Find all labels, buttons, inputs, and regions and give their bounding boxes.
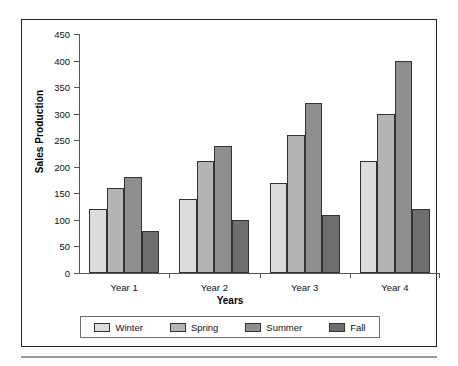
y-tick-label: 100 xyxy=(54,214,70,225)
bar-spring-year-2 xyxy=(197,161,215,273)
bar-summer-year-4 xyxy=(395,61,413,273)
y-tick-mark xyxy=(74,61,79,62)
bar-fall-year-4 xyxy=(412,209,430,273)
legend-item-summer[interactable]: Summer xyxy=(245,322,302,333)
x-tick-label-year-3: Year 3 xyxy=(260,282,350,293)
x-tick-mark xyxy=(260,273,261,278)
y-tick-mark xyxy=(74,167,79,168)
bar-fall-year-2 xyxy=(232,220,250,273)
chart-figure-frame: Sales Production 05010015020025030035040… xyxy=(21,19,437,347)
y-tick-mark xyxy=(74,220,79,221)
bar-summer-year-3 xyxy=(305,103,323,273)
bar-spring-year-4 xyxy=(377,114,395,273)
bar-summer-year-2 xyxy=(214,146,232,273)
y-tick-label: 450 xyxy=(54,29,70,40)
y-tick-label: 300 xyxy=(54,108,70,119)
bar-spring-year-3 xyxy=(287,135,305,273)
x-tick-mark xyxy=(169,273,170,278)
bar-winter-year-1 xyxy=(89,209,107,273)
legend-item-spring[interactable]: Spring xyxy=(170,322,218,333)
y-tick-label: 200 xyxy=(54,161,70,172)
y-tick-label: 50 xyxy=(59,241,70,252)
legend-label-fall: Fall xyxy=(350,322,365,333)
y-tick-label: 350 xyxy=(54,82,70,93)
bar-group-year-1 xyxy=(89,34,159,273)
y-axis-title: Sales Production xyxy=(34,52,45,212)
y-tick-mark xyxy=(74,246,79,247)
y-tick-mark xyxy=(74,273,79,274)
y-tick-label: 250 xyxy=(54,135,70,146)
bar-fall-year-3 xyxy=(322,215,340,273)
bar-winter-year-4 xyxy=(360,161,378,273)
x-tick-mark xyxy=(350,273,351,278)
y-tick-label: 400 xyxy=(54,55,70,66)
bar-group-year-4 xyxy=(360,34,430,273)
legend-label-winter: Winter xyxy=(115,322,142,333)
legend-swatch-winter-icon xyxy=(94,323,110,332)
legend-item-winter[interactable]: Winter xyxy=(94,322,142,333)
y-tick-label: 0 xyxy=(65,268,70,279)
y-tick-mark xyxy=(74,34,79,35)
plot-area: 050100150200250300350400450 Year 1Year 2… xyxy=(79,34,440,273)
x-tick-label-year-2: Year 2 xyxy=(169,282,259,293)
legend-swatch-fall-icon xyxy=(329,323,345,332)
bar-group-year-2 xyxy=(179,34,249,273)
y-tick-mark xyxy=(74,87,79,88)
legend-label-summer: Summer xyxy=(266,322,302,333)
bar-winter-year-3 xyxy=(270,183,288,273)
bar-summer-year-1 xyxy=(124,177,142,273)
x-tick-label-year-4: Year 4 xyxy=(350,282,440,293)
bar-winter-year-2 xyxy=(179,199,197,273)
bar-fall-year-1 xyxy=(142,231,160,273)
legend-swatch-summer-icon xyxy=(245,323,261,332)
legend-label-spring: Spring xyxy=(191,322,218,333)
legend-item-fall[interactable]: Fall xyxy=(329,322,365,333)
x-tick-mark xyxy=(439,273,440,278)
y-tick-mark xyxy=(74,114,79,115)
y-axis-spine xyxy=(79,34,80,273)
y-tick-mark xyxy=(74,193,79,194)
page-divider-rule xyxy=(21,356,437,358)
x-tick-label-year-1: Year 1 xyxy=(79,282,169,293)
y-tick-mark xyxy=(74,140,79,141)
bar-group-year-3 xyxy=(270,34,340,273)
x-axis-title: Years xyxy=(22,295,438,306)
y-tick-label: 150 xyxy=(54,188,70,199)
legend-swatch-spring-icon xyxy=(170,323,186,332)
bar-spring-year-1 xyxy=(107,188,125,273)
chart-legend: WinterSpringSummerFall xyxy=(80,316,380,338)
